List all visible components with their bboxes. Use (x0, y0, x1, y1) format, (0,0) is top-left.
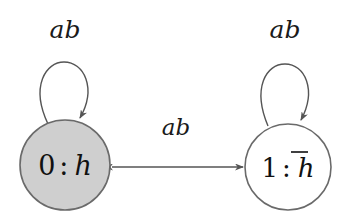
node-state-1-label: 1:h (261, 153, 314, 183)
self-loop-left-label: ab (50, 15, 81, 44)
node-state-0-index: 0 (38, 150, 55, 181)
self-loop-right-label: ab (270, 15, 301, 44)
node-state-1[interactable]: 1:h (245, 124, 331, 210)
self-loop-right[interactable] (261, 64, 308, 126)
node-state-1-variable: h (298, 153, 315, 183)
self-loop-right-path (261, 64, 308, 126)
node-state-0-label: 0:h (38, 150, 92, 181)
node-state-0-variable: h (74, 150, 91, 181)
node-state-1-separator: : (282, 153, 291, 183)
automaton-canvas: 0:h 1:h ab ab ab (0, 0, 347, 216)
node-state-0-separator: : (59, 150, 68, 181)
self-loop-left[interactable] (40, 62, 88, 124)
node-state-0[interactable]: 0:h (20, 120, 110, 210)
edge-between-states-label: ab (162, 114, 190, 140)
automaton-figure: 0:h 1:h ab ab ab (0, 0, 347, 216)
self-loop-left-path (40, 62, 88, 124)
node-state-1-index: 1 (261, 153, 278, 183)
